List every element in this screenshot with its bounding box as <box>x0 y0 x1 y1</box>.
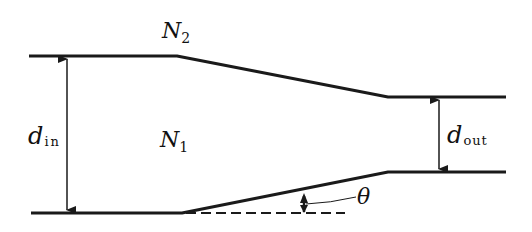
inner-medium-label: N1 <box>159 127 188 155</box>
angle-arrow-head-top <box>300 193 308 203</box>
lower-boundary-line <box>31 172 506 213</box>
taper-angle-label: θ <box>357 184 370 209</box>
upper-boundary-line <box>29 56 506 97</box>
input-width-label: din <box>28 122 61 150</box>
output-width-label: dout <box>447 121 488 149</box>
angle-leader-line <box>306 197 356 204</box>
taper-diagram: N2 N1 din dout θ <box>0 0 532 232</box>
outer-medium-label: N2 <box>161 18 190 46</box>
angle-arrow-head-bottom <box>300 205 308 213</box>
